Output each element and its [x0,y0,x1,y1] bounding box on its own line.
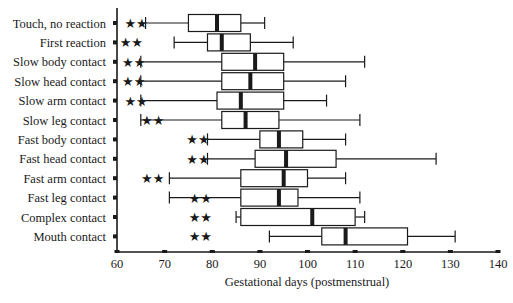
x-tick-label: 110 [346,257,364,271]
box-plot-row: ★★ [186,150,436,167]
significance-stars: ★★ [189,210,212,225]
box-plot-row: ★★ [122,53,365,70]
iqr-box [217,92,284,109]
significance-stars: ★★ [122,74,145,89]
category-label: Fast head contact [19,152,106,166]
median-bar [215,15,219,32]
box-plot-row: ★★ [189,228,455,245]
median-bar [248,73,252,90]
median-bar [344,228,348,245]
median-bar [282,170,286,187]
median-bar [310,209,314,226]
box-plot-row: ★★ [169,189,360,206]
x-axis-title: Gestational days (postmenstrual) [225,275,390,289]
category-label: First reaction [40,36,107,50]
significance-stars: ★★ [124,94,147,109]
significance-stars: ★★ [186,152,209,167]
category-label: Complex contact [21,211,107,225]
significance-stars: ★★ [141,171,164,186]
box-plot-row: ★★ [189,209,365,226]
x-tick-label: 120 [393,257,412,271]
x-tick [353,250,358,253]
significance-stars: ★★ [124,16,147,31]
median-bar [277,189,281,206]
iqr-box [260,131,303,148]
x-tick-label: 100 [298,257,317,271]
box-plot-row: ★★ [124,15,264,32]
median-bar [220,34,224,51]
significance-stars: ★★ [186,132,209,147]
x-axis-ticks: 60708090100110120130140 [111,250,508,271]
x-tick [162,250,167,253]
significance-stars: ★★ [141,113,164,128]
iqr-box [255,150,336,167]
x-tick [257,250,262,253]
boxplot-chart: Touch, no reactionFirst reactionSlow bod… [0,0,513,303]
x-tick-label: 140 [489,257,508,271]
x-tick-label: 60 [111,257,124,271]
category-label: Slow body contact [13,55,107,69]
box-plot-row: ★★ [186,131,345,148]
iqr-box [222,53,284,70]
iqr-box [222,112,279,129]
box-plot-row: ★★ [122,73,346,90]
category-label: Touch, no reaction [13,17,107,31]
iqr-box [322,228,408,245]
category-label: Slow head contact [14,75,106,89]
x-tick [115,250,120,253]
median-bar [284,150,288,167]
x-tick [400,250,405,253]
median-bar [253,53,257,70]
x-tick-label: 130 [441,257,460,271]
significance-stars: ★★ [122,55,145,70]
box-plot-row: ★★ [120,34,294,51]
x-tick [305,250,310,253]
category-label: Fast leg contact [28,191,107,205]
x-tick [496,250,501,253]
plot-area: ★★★★★★★★★★★★★★★★★★★★★★★★ [120,15,456,245]
x-tick [210,250,215,253]
box-plot-row: ★★ [141,112,360,129]
category-label: Slow arm contact [19,94,107,108]
category-label: Mouth contact [33,230,106,244]
box-plot-row: ★★ [124,92,326,109]
category-labels: Touch, no reactionFirst reactionSlow bod… [13,17,117,244]
iqr-box [222,73,284,90]
category-label: Slow leg contact [23,114,107,128]
significance-stars: ★★ [120,35,143,50]
category-label: Fast body contact [18,133,107,147]
significance-stars: ★★ [189,229,212,244]
x-tick-label: 80 [206,257,219,271]
x-tick-label: 70 [158,257,171,271]
median-bar [244,112,248,129]
significance-stars: ★★ [189,191,212,206]
iqr-box [241,170,308,187]
iqr-box [188,15,240,32]
x-tick-label: 90 [254,257,267,271]
category-label: Fast arm contact [23,172,106,186]
iqr-box [241,209,355,226]
box-plot-row: ★★ [141,170,346,187]
median-bar [277,131,281,148]
x-tick [448,250,453,253]
iqr-box [241,189,298,206]
iqr-box [207,34,250,51]
median-bar [239,92,243,109]
